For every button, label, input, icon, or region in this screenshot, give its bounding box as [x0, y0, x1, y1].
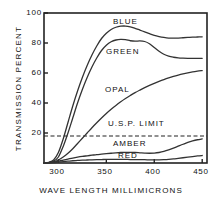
red-curve-label: RED	[118, 152, 138, 160]
ytick-label-100: 100	[18, 9, 42, 17]
y-axis-title: TRANSMISSION PERCENT	[14, 19, 23, 159]
blue-curve-label: BLUE	[113, 18, 138, 26]
usp-limit-text: U.S.P. LIMIT	[108, 120, 165, 128]
transmission-chart: 100 80 60 40 20 300 350 400 450 TRANSMIS…	[0, 0, 222, 209]
green-curve-label: GREEN	[106, 48, 139, 56]
x-axis-title: WAVE LENGTH MILLIMICRONS	[0, 186, 222, 195]
xtick-label-450: 450	[188, 168, 214, 176]
opal-curve-label: OPAL	[105, 86, 130, 94]
amber-curve-label: AMBER	[113, 140, 146, 148]
xtick-label-350: 350	[92, 168, 118, 176]
xtick-label-300: 300	[44, 168, 70, 176]
xtick-label-400: 400	[140, 168, 166, 176]
